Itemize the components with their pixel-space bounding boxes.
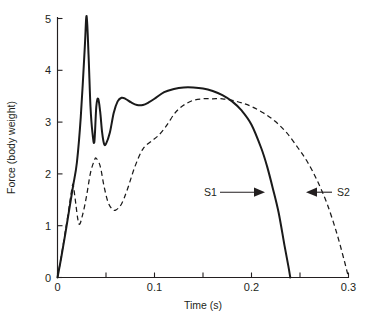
chart-plot-area: 0 1 2 3 4 5 0 0.1 0.2 0.3 Time (s) Force…: [0, 0, 366, 318]
x-axis-tick-labels: 0 0.1 0.2 0.3: [54, 281, 356, 293]
y-tick-label-0: 0: [45, 272, 51, 284]
annotation-s1: S1: [204, 186, 265, 198]
y-axis-title: Force (body weight): [5, 101, 17, 194]
annotation-s1-arrowhead: [254, 188, 265, 197]
y-tick-label-1: 1: [45, 220, 51, 232]
annotation-s2: S2: [306, 186, 350, 198]
x-axis-title: Time (s): [184, 299, 222, 311]
annotation-s1-label: S1: [204, 186, 217, 198]
y-axis-ticks: [58, 19, 63, 278]
y-tick-label-4: 4: [45, 64, 51, 76]
x-axis-ticks: [58, 273, 349, 278]
x-tick-label-2: 0.2: [244, 281, 259, 293]
annotation-s2-label: S2: [337, 186, 350, 198]
x-tick-label-1: 0.1: [147, 281, 162, 293]
y-tick-label-2: 2: [45, 168, 51, 180]
annotation-s2-arrowhead: [306, 188, 317, 197]
y-axis-tick-labels: 0 1 2 3 4 5: [45, 13, 51, 284]
x-tick-label-3: 0.3: [341, 281, 356, 293]
x-tick-label-0: 0: [54, 281, 60, 293]
y-tick-label-3: 3: [45, 116, 51, 128]
y-tick-label-5: 5: [45, 13, 51, 25]
series-curve-s1: [58, 16, 291, 278]
force-time-chart: 0 1 2 3 4 5 0 0.1 0.2 0.3 Time (s) Force…: [0, 0, 366, 318]
